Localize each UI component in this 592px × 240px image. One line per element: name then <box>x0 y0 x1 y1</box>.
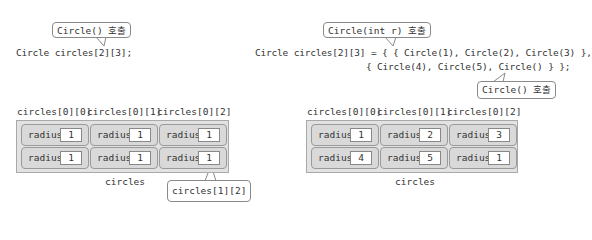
circle-object-1-1: radius 1 <box>90 147 158 169</box>
radius-value: 5 <box>419 151 441 165</box>
callout-text: Circle() 호출 <box>57 25 126 36</box>
radius-label: radius <box>318 152 352 163</box>
circle-object-0-2: radius 1 <box>159 124 227 146</box>
array-circles-right: radius 1 radius 2 radius 3 radius 4 radi… <box>306 120 518 173</box>
circle-object-1-2: radius 1 <box>449 147 517 169</box>
column-label-2: circles[0][2] <box>447 106 521 117</box>
circle-object-0-0: radius 1 <box>311 124 379 146</box>
code-initializer-line2: { Circle(4), Circle(5), Circle() } }; <box>366 61 570 72</box>
circle-object-1-1: radius 5 <box>380 147 448 169</box>
radius-label: radius <box>28 152 62 163</box>
radius-value: 4 <box>350 151 372 165</box>
array-name-label: circles <box>395 176 435 187</box>
radius-label: radius <box>456 129 490 140</box>
radius-value: 1 <box>198 128 220 142</box>
circle-object-0-0: radius 1 <box>21 124 89 146</box>
code-initializer-line1: Circle circles[2][3] = { { Circle(1), Ci… <box>255 47 592 58</box>
column-label-1: circles[0][1] <box>377 106 451 117</box>
radius-value: 1 <box>60 151 82 165</box>
circle-object-0-2: radius 3 <box>449 124 517 146</box>
array-name-label: circles <box>105 176 145 187</box>
radius-value: 3 <box>488 128 510 142</box>
circle-object-0-1: radius 2 <box>380 124 448 146</box>
radius-value: 2 <box>419 128 441 142</box>
callout-default-constructor: Circle() 호출 <box>52 22 131 38</box>
radius-value: 1 <box>198 151 220 165</box>
circle-object-1-2: radius 1 <box>159 147 227 169</box>
callout-element-index: circles[1][2] <box>167 180 251 202</box>
radius-value: 1 <box>350 128 372 142</box>
radius-label: radius <box>97 129 131 140</box>
circle-object-1-0: radius 1 <box>21 147 89 169</box>
circle-object-1-0: radius 4 <box>311 147 379 169</box>
radius-label: radius <box>387 152 421 163</box>
radius-label: radius <box>166 129 200 140</box>
radius-label: radius <box>166 152 200 163</box>
radius-label: radius <box>28 129 62 140</box>
column-label-0: circles[0][0] <box>17 106 91 117</box>
callout-text: circles[1][2] <box>172 185 246 196</box>
radius-label: radius <box>387 129 421 140</box>
radius-value: 1 <box>488 151 510 165</box>
callout-text: Circle(int r) 호출 <box>328 25 426 36</box>
column-label-1: circles[0][1] <box>87 106 161 117</box>
callout-text: Circle() 호출 <box>482 84 551 95</box>
circle-object-0-1: radius 1 <box>90 124 158 146</box>
radius-label: radius <box>97 152 131 163</box>
callout-int-constructor: Circle(int r) 호출 <box>323 22 431 38</box>
callout-default-constructor-right: Circle() 호출 <box>477 81 556 99</box>
radius-value: 1 <box>129 128 151 142</box>
radius-label: radius <box>318 129 352 140</box>
array-circles-left: radius 1 radius 1 radius 1 radius 1 radi… <box>16 120 229 173</box>
column-label-0: circles[0][0] <box>307 106 381 117</box>
code-declaration: Circle circles[2][3]; <box>16 47 132 58</box>
radius-value: 1 <box>60 128 82 142</box>
radius-label: radius <box>456 152 490 163</box>
column-label-2: circles[0][2] <box>157 106 231 117</box>
radius-value: 1 <box>129 151 151 165</box>
